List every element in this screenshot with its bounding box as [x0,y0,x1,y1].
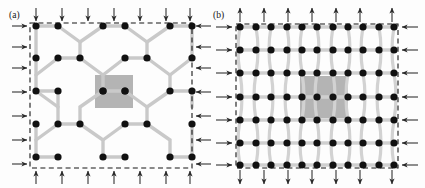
lattice-figure-svg: (a) [0,0,425,188]
panel-a-label: (a) [9,10,20,21]
panel-b-label: (b) [213,10,224,21]
figure-container: (a) [0,0,425,188]
